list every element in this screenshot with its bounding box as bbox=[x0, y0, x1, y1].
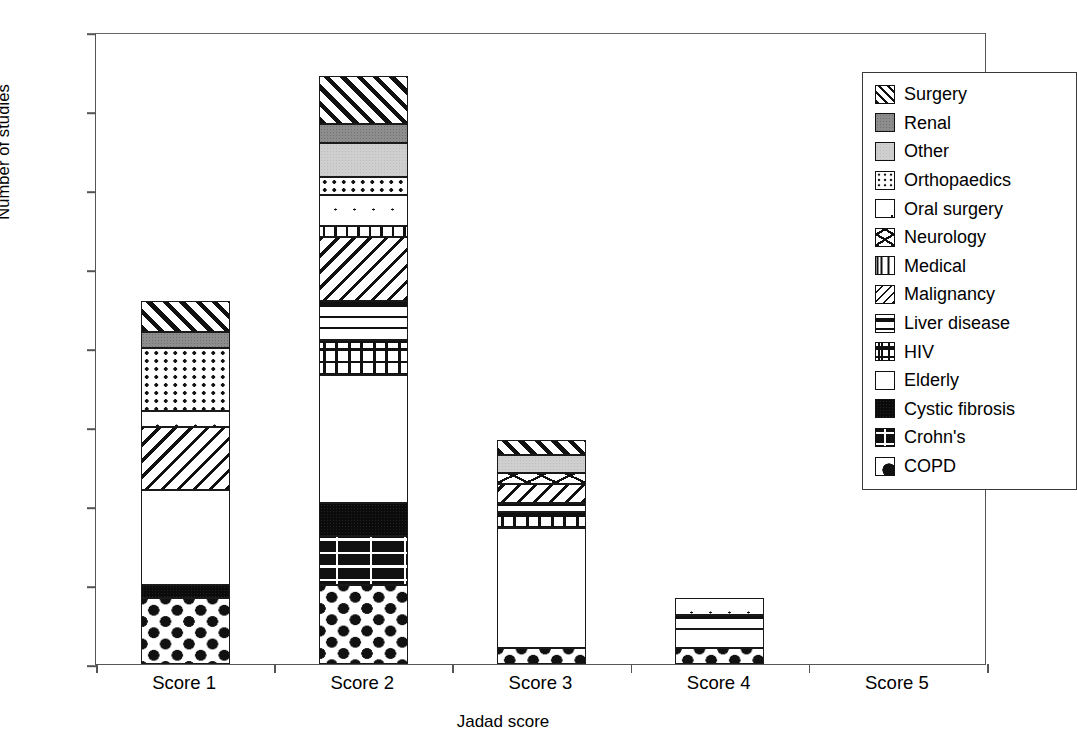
solid-light-gray-swatch-icon bbox=[875, 142, 895, 161]
y-axis-title: Number of studies bbox=[0, 22, 13, 282]
y-tick-mark bbox=[87, 507, 96, 509]
bar-segment bbox=[675, 615, 764, 629]
solid-dark-gray-swatch-icon bbox=[875, 113, 895, 132]
bar-segment bbox=[497, 484, 586, 503]
legend-item-liver-disease: Liver disease bbox=[875, 309, 1076, 338]
bar-segment bbox=[497, 473, 586, 484]
x-tick-label-2: Score 2 bbox=[272, 672, 452, 694]
bar-segment bbox=[141, 585, 230, 598]
stacked-bar bbox=[141, 301, 230, 664]
y-tick-mark bbox=[87, 428, 96, 430]
y-tick-mark bbox=[87, 112, 96, 114]
y-tick-mark bbox=[87, 270, 96, 272]
stacked-bar bbox=[319, 76, 408, 664]
vertical-lines-swatch-icon bbox=[875, 256, 895, 275]
bar-segment bbox=[319, 301, 408, 341]
bar-segment bbox=[497, 512, 586, 528]
legend-item-crohn-s: Crohn's bbox=[875, 423, 1076, 452]
bar-segment bbox=[141, 411, 230, 427]
legend-item-label: HIV bbox=[904, 343, 934, 361]
bar-segment bbox=[319, 177, 408, 194]
legend-item-label: Malignancy bbox=[904, 285, 995, 303]
legend-item-elderly: Elderly bbox=[875, 366, 1076, 395]
stacked-bar bbox=[497, 440, 586, 664]
bar-segment bbox=[141, 598, 230, 664]
legend-item-orthopaedics: Orthopaedics bbox=[875, 166, 1076, 195]
y-tick-mark bbox=[87, 586, 96, 588]
bar-segment bbox=[319, 340, 408, 375]
legend-item-cystic-fibrosis: Cystic fibrosis bbox=[875, 395, 1076, 424]
bar-segment bbox=[319, 503, 408, 536]
plot-area: 0510152025303540 SurgeryRenalOtherOrthop… bbox=[95, 33, 986, 665]
diagonal-hatch-back-thin-swatch-icon bbox=[875, 285, 895, 304]
legend: SurgeryRenalOtherOrthopaedicsOral surger… bbox=[862, 72, 1077, 490]
legend-item-renal: Renal bbox=[875, 109, 1076, 138]
y-tick-mark bbox=[87, 191, 96, 193]
empty-white-swatch-icon bbox=[875, 371, 895, 390]
bar-segment bbox=[675, 598, 764, 615]
legend-item-label: Surgery bbox=[904, 85, 967, 103]
x-tick-label-3: Score 3 bbox=[451, 672, 631, 694]
grid-crosshatch-swatch-icon bbox=[875, 342, 895, 361]
x-tick-mark bbox=[987, 664, 989, 673]
legend-item-label: Medical bbox=[904, 257, 966, 275]
brick-swatch-icon bbox=[875, 428, 895, 447]
legend-item-label: Cystic fibrosis bbox=[904, 400, 1015, 418]
legend-item-copd: COPD bbox=[875, 452, 1076, 481]
solid-black-swatch-icon bbox=[875, 399, 895, 418]
x-axis-title: Jadad score bbox=[0, 712, 1006, 732]
legend-item-label: Elderly bbox=[904, 371, 959, 389]
crossed-diagonal-bowtie-swatch-icon bbox=[875, 228, 895, 247]
bar-segment bbox=[497, 440, 586, 456]
diagonal-hatch-forward-thick-swatch-icon bbox=[875, 85, 895, 104]
bar-segment bbox=[319, 237, 408, 300]
legend-item-label: Oral surgery bbox=[904, 200, 1003, 218]
legend-item-label: Liver disease bbox=[904, 314, 1010, 332]
horizontal-lines-swatch-icon bbox=[875, 314, 895, 333]
legend-item-label: Neurology bbox=[904, 228, 986, 246]
y-tick-mark bbox=[87, 665, 96, 667]
dense-dots-swatch-icon bbox=[875, 171, 895, 190]
x-tick-label-4: Score 4 bbox=[629, 672, 809, 694]
legend-item-hiv: HIV bbox=[875, 337, 1076, 366]
legend-item-label: Orthopaedics bbox=[904, 171, 1011, 189]
legend-item-label: Crohn's bbox=[904, 428, 965, 446]
bar-segment bbox=[497, 503, 586, 512]
legend-item-medical: Medical bbox=[875, 252, 1076, 281]
bar-segment bbox=[675, 629, 764, 648]
bar-segment bbox=[141, 332, 230, 348]
bar-segment bbox=[319, 124, 408, 143]
stacked-bar bbox=[675, 598, 764, 664]
bar-segment bbox=[141, 427, 230, 490]
x-tick-label-5: Score 5 bbox=[807, 672, 987, 694]
bar-segment bbox=[319, 536, 408, 585]
legend-item-neurology: Neurology bbox=[875, 223, 1076, 252]
bar-segment bbox=[497, 455, 586, 472]
bar-segment bbox=[141, 301, 230, 333]
bar-segment bbox=[497, 528, 586, 648]
legend-item-oral-surgery: Oral surgery bbox=[875, 194, 1076, 223]
bar-segment bbox=[319, 143, 408, 178]
bar-segment bbox=[141, 490, 230, 585]
legend-item-label: Renal bbox=[904, 114, 951, 132]
legend-item-malignancy: Malignancy bbox=[875, 280, 1076, 309]
legend-item-label: Other bbox=[904, 142, 949, 160]
legend-item-other: Other bbox=[875, 137, 1076, 166]
bar-segment bbox=[319, 585, 408, 664]
bar-segment bbox=[319, 76, 408, 123]
y-tick-mark bbox=[87, 33, 96, 35]
legend-item-label: COPD bbox=[904, 457, 956, 475]
sparse-dots-swatch-icon bbox=[875, 199, 895, 218]
bar-segment bbox=[497, 648, 586, 664]
bar-segment bbox=[675, 648, 764, 664]
black-diamonds-swatch-icon bbox=[875, 457, 895, 476]
y-tick-mark bbox=[87, 349, 96, 351]
bar-segment bbox=[319, 375, 408, 503]
bar-segment bbox=[319, 195, 408, 227]
legend-item-surgery: Surgery bbox=[875, 80, 1076, 109]
x-tick-label-1: Score 1 bbox=[94, 672, 274, 694]
bar-segment bbox=[319, 226, 408, 237]
bar-segment bbox=[141, 348, 230, 411]
